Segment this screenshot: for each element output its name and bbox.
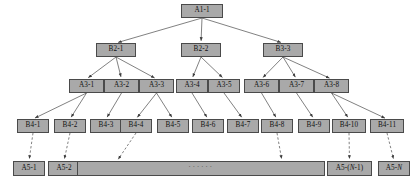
edge-b4-11-to-a5-n	[387, 133, 393, 159]
node-label: B4-3	[99, 122, 114, 129]
tree-node-b4-8[interactable]: B4-8	[261, 119, 293, 133]
edge-b2-1-to-a3-2	[116, 57, 121, 77]
edge-a1-1-to-b3-3	[202, 18, 281, 42]
node-label: B4-6	[201, 122, 216, 129]
node-label: A5-2	[56, 165, 71, 172]
node-label: A3-7	[289, 82, 304, 89]
node-label: A3-3	[149, 82, 164, 89]
edge-b2-2-to-a3-5	[201, 57, 222, 77]
tree-node-b4-10[interactable]: B4-10	[332, 119, 366, 133]
node-label: B2-2	[194, 46, 209, 53]
node-label: A3-2	[114, 82, 129, 89]
node-label: B4-10	[340, 122, 358, 129]
edge-a3-2-to-b4-3	[107, 93, 121, 117]
tree-node-b2-1[interactable]: B2-1	[96, 43, 136, 57]
node-label-variable: N	[397, 165, 402, 172]
node-label: A3-4	[184, 82, 199, 89]
node-label: A5-1	[21, 165, 36, 172]
node-label: B3-3	[276, 46, 291, 53]
edge-b4-2-to-a5-2	[64, 133, 70, 159]
edge-b4-8-to-a5-mid-right	[277, 133, 282, 159]
edge-a3-4-to-b4-6	[192, 93, 207, 117]
node-label: A3-6	[254, 82, 269, 89]
edge-b3-3-to-a3-8	[283, 57, 330, 78]
node-label: B4-9	[307, 122, 322, 129]
tree-node-b4-4[interactable]: B4-4	[120, 119, 152, 133]
edge-b2-1-to-a3-1	[88, 57, 116, 78]
edge-a1-1-to-b2-2	[201, 18, 202, 41]
tree-node-a3-1[interactable]: A3-1	[69, 79, 104, 93]
tree-node-b4-3[interactable]: B4-3	[90, 119, 122, 133]
tree-node-b4-2[interactable]: B4-2	[54, 119, 86, 133]
tree-node-b4-9[interactable]: B4-9	[298, 119, 330, 133]
tree-node-b4-5[interactable]: B4-5	[157, 119, 189, 133]
edge-b4-1-to-a5-1	[29, 133, 33, 159]
node-label: B4-1	[26, 122, 41, 129]
node-label: A3-8	[324, 82, 339, 89]
node-label: B4-7	[236, 122, 251, 129]
tree-node-a5-n-1[interactable]: A5-(N-1)	[327, 161, 372, 176]
edge-a3-3-to-b4-5	[157, 93, 172, 117]
edge-b2-1-to-a3-3	[116, 57, 155, 78]
tree-node-b4-7[interactable]: B4-7	[227, 119, 259, 133]
node-label: B4-8	[270, 122, 285, 129]
tree-node-a1-1[interactable]: A1-1	[181, 4, 223, 18]
node-label: A3-5	[216, 82, 231, 89]
tree-node-b2-2[interactable]: B2-2	[181, 43, 221, 57]
node-label: B4-5	[166, 122, 181, 129]
tree-node-a3-5[interactable]: A3-5	[208, 79, 240, 93]
tree-node-a3-4[interactable]: A3-4	[176, 79, 208, 93]
node-label: ······	[188, 163, 214, 171]
node-label: B4-4	[129, 122, 144, 129]
edge-a3-5-to-b4-7	[224, 93, 242, 117]
node-label: A3-1	[79, 82, 94, 89]
tree-node-a3-6[interactable]: A3-6	[244, 79, 279, 93]
node-label: B4-2	[63, 122, 78, 129]
tree-node-a5-2[interactable]: A5-2	[48, 161, 80, 176]
tree-node-a3-8[interactable]: A3-8	[314, 79, 349, 93]
tree-node-a5-mid[interactable]: ······	[77, 161, 325, 176]
solid-edge-group	[35, 18, 385, 118]
node-label-suffix: -1)	[355, 165, 364, 172]
tree-node-a3-3[interactable]: A3-3	[139, 79, 174, 93]
node-label-prefix: A5-	[386, 165, 397, 172]
tree-node-b4-6[interactable]: B4-6	[192, 119, 224, 133]
edge-b3-3-to-a3-6	[263, 57, 283, 77]
node-label-prefix: A5-(	[336, 165, 350, 172]
dashed-edge-group	[29, 133, 393, 159]
edge-a3-6-to-b4-8	[262, 93, 276, 117]
tree-node-a3-7[interactable]: A3-7	[279, 79, 314, 93]
edge-b4-4-to-a5-mid-left	[118, 133, 136, 159]
node-label: A1-1	[194, 7, 209, 14]
tree-node-a5-n[interactable]: A5-N	[378, 161, 410, 176]
edge-a3-7-to-b4-9	[297, 93, 313, 117]
edge-b2-2-to-a3-4	[193, 57, 201, 77]
edge-a3-3-to-b4-4	[137, 93, 156, 117]
hierarchical-tree-diagram: A1-1B2-1B2-2B3-3A3-1A3-2A3-3A3-4A3-5A3-6…	[0, 0, 418, 186]
edge-a1-1-to-b2-1	[118, 18, 202, 42]
tree-node-b4-1[interactable]: B4-1	[17, 119, 49, 133]
edge-layer	[0, 0, 418, 186]
tree-node-a5-1[interactable]: A5-1	[13, 161, 45, 176]
tree-node-a3-2[interactable]: A3-2	[104, 79, 139, 93]
tree-node-b4-11[interactable]: B4-11	[370, 119, 404, 133]
node-label: B4-11	[378, 122, 396, 129]
tree-node-b3-3[interactable]: B3-3	[263, 43, 303, 57]
node-label: B2-1	[109, 46, 124, 53]
